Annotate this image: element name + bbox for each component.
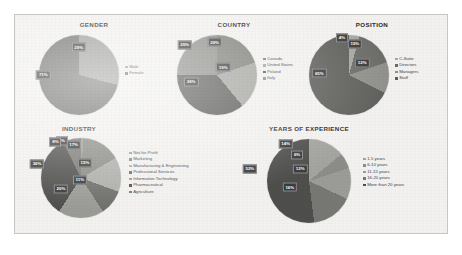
legend-swatch-icon	[129, 165, 132, 168]
legend-swatch-icon	[129, 171, 132, 174]
legend-swatch-icon	[129, 184, 132, 187]
legend-item[interactable]: Male	[125, 65, 144, 69]
legend-item[interactable]: Marketing	[129, 157, 189, 161]
legend-item[interactable]: Manufacturing & Engineering	[129, 164, 189, 168]
legend-swatch-icon	[395, 64, 398, 67]
legend-item-label: Agriculture	[133, 190, 154, 194]
pie-slice-label: 8%	[49, 137, 61, 146]
legend-industry: Not-for-ProfitMarketingManufacturing & E…	[129, 151, 189, 194]
legend-item-label: 16-20 years	[367, 176, 390, 180]
pie-slice-label: 25%	[177, 40, 191, 49]
legend-item-label: Male	[129, 65, 138, 69]
pie-slice-label: 6%	[291, 150, 303, 159]
pie-slice-label: 20%	[54, 185, 68, 194]
pie-slice-label: 14%	[279, 140, 293, 149]
legend-item-label: 1-5 years	[367, 157, 385, 161]
legend-gender: MaleFemale	[125, 65, 144, 76]
charts-figure-frame: GENDER 29%71% MaleFemale COUNTRY 20%19%3…	[14, 14, 448, 234]
pie-slice-label: 19%	[216, 63, 230, 72]
chart-title-country: COUNTRY	[161, 21, 307, 28]
legend-item[interactable]: 16-20 years	[363, 176, 404, 180]
legend-item-label: More than 20 years	[367, 183, 404, 187]
legend-swatch-icon	[395, 71, 398, 74]
legend-item-label: 11-15 years	[367, 170, 389, 174]
legend-position: C-SuiteDirectorsManagersStaff	[395, 57, 418, 81]
legend-country: CanadaUnited StatesPolandItaly	[263, 57, 293, 81]
pie-slice-label: 36%	[184, 77, 198, 86]
legend-swatch-icon	[395, 58, 398, 61]
legend-item[interactable]: Professional Services	[129, 170, 189, 174]
chart-title-industry: INDUSTRY	[21, 125, 137, 132]
legend-swatch-icon	[129, 178, 132, 181]
legend-swatch-icon	[129, 152, 132, 155]
legend-item[interactable]: Managers	[395, 70, 418, 74]
chart-panel-gender: GENDER 29%71% MaleFemale	[21, 21, 167, 125]
chart-title-years-of-experience: YEARS OF EXPERIENCE	[233, 125, 385, 132]
legend-item[interactable]: 11-15 years	[363, 170, 404, 174]
legend-swatch-icon	[363, 164, 366, 167]
pie-slice-label: 11%	[73, 175, 87, 184]
legend-swatch-icon	[363, 184, 366, 187]
legend-item[interactable]: Canada	[263, 57, 293, 61]
legend-item[interactable]: Pharmaceutical	[129, 183, 189, 187]
legend-swatch-icon	[363, 177, 366, 180]
legend-swatch-icon	[125, 72, 128, 75]
legend-swatch-icon	[129, 158, 132, 161]
legend-item-label: United States	[267, 63, 293, 67]
legend-item[interactable]: More than 20 years	[363, 183, 404, 187]
legend-swatch-icon	[125, 66, 128, 69]
legend-swatch-icon	[395, 77, 398, 80]
legend-item[interactable]: C-Suite	[395, 57, 418, 61]
pie-slice-label: 15%	[78, 158, 92, 167]
chart-panel-position: POSITION 4%15%12%65% C-SuiteDirectorsMan…	[299, 21, 445, 125]
pie-slice-label: 4%	[336, 33, 348, 42]
chart-title-gender: GENDER	[21, 21, 167, 28]
legend-swatch-icon	[263, 64, 266, 67]
legend-swatch-icon	[363, 171, 366, 174]
pie-slice-label: 71%	[36, 70, 50, 79]
chart-panel-country: COUNTRY 20%19%36%25% CanadaUnited States…	[161, 21, 307, 125]
pie-slice-label: 12%	[293, 164, 307, 173]
legend-item-label: Pharmaceutical	[133, 183, 163, 187]
pie-slice-label: 65%	[312, 69, 326, 78]
legend-item-label: Female	[129, 71, 143, 75]
legend-item[interactable]: United States	[263, 63, 293, 67]
legend-swatch-icon	[129, 191, 132, 194]
legend-years-of-experience: 1-5 years6-10 years11-15 years16-20 year…	[363, 157, 404, 187]
legend-swatch-icon	[263, 77, 266, 80]
chart-panel-years-of-experience: YEARS OF EXPERIENCE 14%6%12%16%52% 1-5 y…	[233, 125, 445, 231]
legend-item[interactable]: Agriculture	[129, 190, 189, 194]
legend-item[interactable]: Information Technology	[129, 177, 189, 181]
legend-item-label: Staff	[399, 76, 408, 80]
pie-slice-label: 16%	[283, 183, 297, 192]
legend-item[interactable]: Female	[125, 71, 144, 75]
legend-item[interactable]: 1-5 years	[363, 157, 404, 161]
legend-item-label: Managers	[399, 70, 418, 74]
legend-swatch-icon	[363, 158, 366, 161]
legend-item-label: Not-for-Profit	[133, 151, 158, 155]
pie-slice-label: 29%	[71, 43, 85, 52]
legend-item-label: Information Technology	[133, 177, 177, 181]
pie-slice-label: 12%	[355, 58, 369, 67]
legend-item-label: Directors	[399, 63, 416, 67]
legend-item-label: Italy	[267, 76, 275, 80]
legend-item[interactable]: Directors	[395, 63, 418, 67]
legend-swatch-icon	[263, 71, 266, 74]
legend-item[interactable]: Poland	[263, 70, 293, 74]
pie-slice-label: 15%	[348, 40, 362, 49]
pie-slice-label: 20%	[207, 38, 221, 47]
legend-item-label: C-Suite	[399, 57, 413, 61]
legend-swatch-icon	[263, 58, 266, 61]
legend-item-label: Professional Services	[133, 170, 174, 174]
legend-item[interactable]: 6-10 years	[363, 163, 404, 167]
pie-slices-years-of-experience	[267, 139, 351, 223]
legend-item[interactable]: Staff	[395, 76, 418, 80]
legend-item[interactable]: Not-for-Profit	[129, 151, 189, 155]
pie-slice-label: 36%	[30, 159, 44, 168]
legend-item-label: Manufacturing & Engineering	[133, 164, 188, 168]
legend-item-label: Poland	[267, 70, 280, 74]
legend-item[interactable]: Italy	[263, 76, 293, 80]
legend-item-label: Canada	[267, 57, 282, 61]
chart-panel-industry: INDUSTRY 1%17%15%11%20%36%8% Not-for-Pro…	[21, 125, 201, 231]
chart-title-position: POSITION	[299, 21, 445, 28]
